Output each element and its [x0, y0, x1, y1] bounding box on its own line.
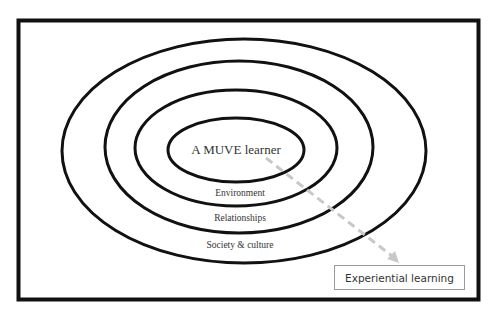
- center-label: A MUVE learner: [191, 142, 281, 158]
- ring-label-environment: Environment: [215, 188, 265, 198]
- experiential-learning-box: Experiential learning: [334, 265, 465, 290]
- dashed-arrow: [266, 158, 399, 263]
- ring-label-society-culture: Society & culture: [206, 240, 273, 250]
- arrowhead-icon: [387, 251, 399, 263]
- ring-label-relationships: Relationships: [214, 213, 266, 223]
- experiential-learning-label: Experiential learning: [345, 272, 454, 284]
